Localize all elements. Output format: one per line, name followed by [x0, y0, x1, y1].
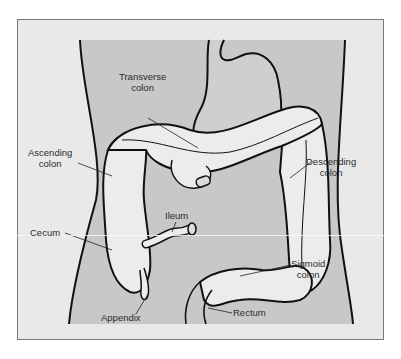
- label-ascending-colon: Ascending colon: [28, 147, 72, 169]
- label-appendix: Appendix: [101, 312, 141, 323]
- colon-diagram: [0, 0, 401, 359]
- ileum-cut-end: [188, 223, 196, 235]
- label-sigmoid-colon: Sigmoid colon: [291, 258, 325, 280]
- label-descending-colon: Descending colon: [306, 156, 356, 178]
- scan-seam: [17, 235, 384, 236]
- label-ileum: Ileum: [165, 210, 188, 221]
- label-rectum: Rectum: [233, 307, 266, 318]
- label-cecum: Cecum: [30, 227, 60, 238]
- label-transverse-colon: Transverse colon: [119, 71, 166, 93]
